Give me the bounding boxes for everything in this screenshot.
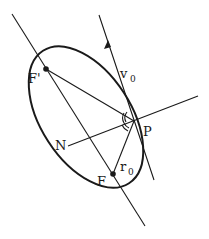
tangent-line xyxy=(99,15,154,180)
angle-mark-lower xyxy=(122,125,128,131)
label-velocity-sub: 0 xyxy=(130,74,136,84)
label-normal: N xyxy=(55,138,66,153)
label-point-p: P xyxy=(143,124,152,139)
label-radius: r xyxy=(120,159,127,174)
angle-mark-upper xyxy=(123,113,124,123)
label-radius-sub: 0 xyxy=(128,167,134,177)
focus-secondary-dot xyxy=(43,66,49,72)
orbit-diagram: F' F P N v 0 r 0 xyxy=(0,0,209,239)
label-focus-secondary: F' xyxy=(28,71,41,86)
label-velocity: v xyxy=(119,66,128,81)
label-focus-primary: F xyxy=(97,174,106,189)
focus-primary-dot xyxy=(110,171,116,177)
